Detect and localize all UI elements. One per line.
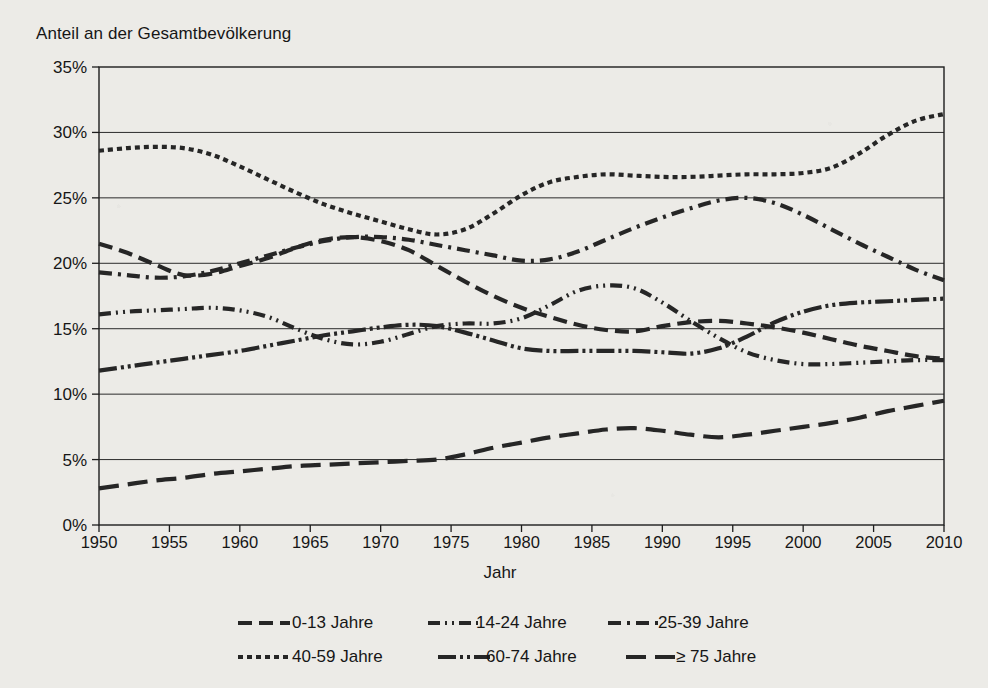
data-series-group (99, 114, 944, 488)
x-tick-label: 1950 (81, 533, 118, 551)
legend-label: ≥ 75 Jahre (676, 647, 756, 666)
x-tick-label: 1980 (503, 533, 540, 551)
series-line (99, 198, 944, 281)
x-tick-label: 2005 (855, 533, 892, 551)
y-tick-label: 35% (53, 58, 87, 77)
chart-svg: 0%5%10%15%20%25%30%35% 19501955196019651… (0, 0, 988, 688)
y-tick-label: 30% (53, 123, 87, 142)
legend-label: 14-24 Jahre (476, 613, 567, 632)
y-tick-label: 20% (53, 254, 87, 273)
chart-figure: Anteil an der Gesamtbevölkerung 0%5%10%1… (0, 0, 988, 688)
legend-label: 0-13 Jahre (292, 613, 373, 632)
x-tick-label: 2000 (785, 533, 822, 551)
legend-label: 25-39 Jahre (658, 613, 749, 632)
series-line (99, 285, 944, 364)
y-tick-label: 10% (53, 385, 87, 404)
series-line (99, 401, 944, 489)
x-tick-labels: 1950195519601965197019751980198519901995… (81, 533, 963, 551)
x-tick-label: 1960 (221, 533, 258, 551)
series-line (99, 237, 944, 359)
y-tick-label: 5% (62, 451, 87, 470)
x-tick-label: 1985 (574, 533, 611, 551)
chart-legend: 0-13 Jahre14-24 Jahre25-39 Jahre40-59 Ja… (238, 613, 756, 666)
x-axis-title: Jahr (483, 563, 516, 582)
legend-label: 40-59 Jahre (292, 647, 383, 666)
x-tick-label: 1955 (151, 533, 188, 551)
gridlines (99, 132, 944, 459)
x-tick-label: 2010 (926, 533, 963, 551)
legend-label: 60-74 Jahre (486, 647, 577, 666)
y-tick-label: 15% (53, 320, 87, 339)
plot-frame (99, 67, 944, 525)
x-tick-label: 1990 (644, 533, 681, 551)
y-tick-labels: 0%5%10%15%20%25%30%35% (53, 58, 87, 535)
y-tick-label: 25% (53, 189, 87, 208)
tick-marks (92, 67, 944, 532)
x-tick-label: 1965 (292, 533, 329, 551)
x-tick-label: 1970 (362, 533, 399, 551)
plot-area-wrapper: 0%5%10%15%20%25%30%35% 19501955196019651… (0, 0, 988, 688)
x-tick-label: 1975 (433, 533, 470, 551)
x-tick-label: 1995 (714, 533, 751, 551)
